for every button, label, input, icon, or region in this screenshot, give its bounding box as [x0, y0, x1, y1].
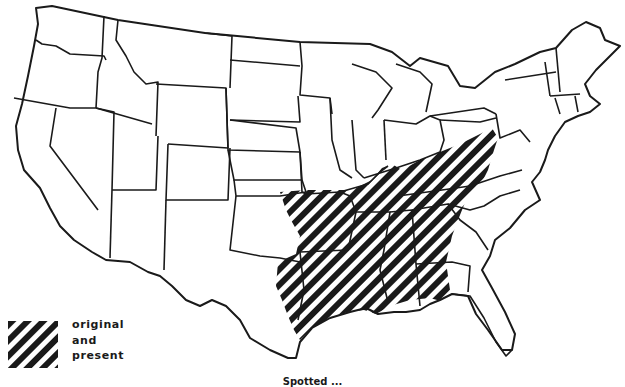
legend-line-1: original — [72, 317, 124, 333]
map-legend: original and present — [8, 321, 124, 368]
hatch-swatch-icon — [8, 321, 58, 368]
legend-line-3: present — [72, 348, 124, 364]
legend-line-2: and — [72, 333, 124, 349]
map-caption: Spotted ... — [0, 376, 625, 387]
legend-label: original and present — [72, 317, 124, 364]
